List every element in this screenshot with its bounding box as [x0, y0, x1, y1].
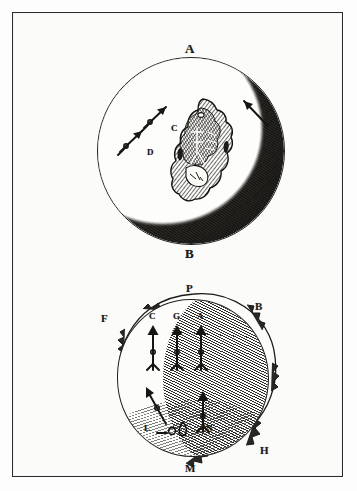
- lower-label-l: L: [144, 424, 150, 433]
- lower-label-h: H: [260, 445, 269, 456]
- lower-label-g: G: [173, 312, 180, 321]
- lower-arrow-a: [192, 322, 210, 372]
- lower-moon-disc: C G A: [117, 299, 269, 457]
- upper-label-e: E: [262, 110, 268, 119]
- figure-lower-moon: C G A: [85, 285, 305, 481]
- lower-label-c: C: [149, 312, 156, 321]
- upper-moon-disc: C D E: [97, 57, 285, 245]
- lower-label-a: A: [197, 312, 204, 321]
- figure-upper-moon: C D E A B: [71, 43, 311, 273]
- plate-border: C D E A B: [12, 12, 343, 477]
- upper-arrow-e: [238, 96, 276, 130]
- lower-arrow-g: [168, 322, 186, 372]
- lower-label-m: M: [185, 463, 195, 474]
- engraving-plate: C D E A B: [0, 0, 357, 491]
- upper-label-b: B: [185, 247, 194, 260]
- lower-label-p: P: [186, 283, 193, 294]
- upper-arrow-d: [116, 126, 150, 156]
- upper-moon-central-crater: [170, 98, 236, 206]
- upper-label-a: A: [185, 42, 194, 55]
- lower-arrow-c: [144, 322, 162, 372]
- upper-label-d: D: [147, 148, 154, 157]
- upper-label-c: C: [171, 124, 178, 133]
- lower-label-b: B: [255, 301, 262, 312]
- lower-crater-marks: [156, 420, 190, 438]
- lower-label-n: N: [206, 424, 213, 433]
- lower-label-f: F: [101, 313, 108, 324]
